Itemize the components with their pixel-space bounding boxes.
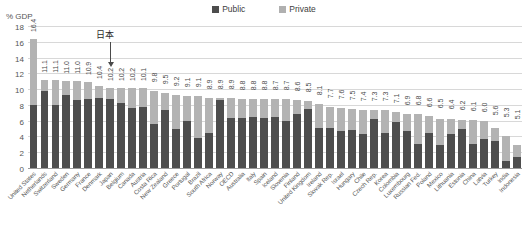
- stacked-bar[interactable]: [458, 119, 466, 168]
- bar-segment-public[interactable]: [172, 129, 180, 168]
- stacked-bar[interactable]: [95, 86, 103, 168]
- stacked-bar[interactable]: [128, 88, 136, 168]
- bar-segment-public[interactable]: [30, 105, 38, 168]
- bar-segment-public[interactable]: [52, 105, 60, 168]
- stacked-bar[interactable]: [172, 95, 180, 168]
- bar-segment-public[interactable]: [150, 124, 158, 168]
- bar-segment-public[interactable]: [337, 131, 345, 168]
- bar-segment-private[interactable]: [95, 86, 103, 98]
- bar-column[interactable]: 10.1: [138, 26, 149, 168]
- bar-segment-public[interactable]: [282, 121, 290, 168]
- bar-column[interactable]: 6.5: [434, 26, 445, 168]
- bar-segment-private[interactable]: [315, 104, 323, 128]
- stacked-bar[interactable]: [359, 110, 367, 168]
- stacked-bar[interactable]: [348, 109, 356, 168]
- stacked-bar[interactable]: [62, 81, 70, 168]
- bar-column[interactable]: 10.4: [94, 26, 105, 168]
- bar-segment-private[interactable]: [139, 88, 147, 107]
- stacked-bar[interactable]: [370, 110, 378, 168]
- bar-column[interactable]: 8.8: [248, 26, 259, 168]
- bar-column[interactable]: 11.1: [39, 26, 50, 168]
- bar-segment-public[interactable]: [359, 134, 367, 168]
- legend-item-private[interactable]: Private: [279, 4, 315, 14]
- stacked-bar[interactable]: [392, 112, 400, 168]
- bar-segment-public[interactable]: [502, 161, 510, 168]
- bar-segment-private[interactable]: [106, 88, 114, 100]
- bar-column[interactable]: 6.4: [445, 26, 456, 168]
- stacked-bar[interactable]: [315, 104, 323, 168]
- bar-segment-public[interactable]: [260, 118, 268, 168]
- stacked-bar[interactable]: [436, 117, 444, 168]
- bar-column[interactable]: 8.5: [303, 26, 314, 168]
- bar-column[interactable]: 7.4: [358, 26, 369, 168]
- bar-segment-public[interactable]: [469, 144, 477, 168]
- bar-column[interactable]: 8.8: [259, 26, 270, 168]
- bar-segment-private[interactable]: [491, 128, 499, 141]
- bar-column[interactable]: 9.2: [171, 26, 182, 168]
- bar-column[interactable]: 6.1: [467, 26, 478, 168]
- stacked-bar[interactable]: [293, 100, 301, 168]
- bar-column[interactable]: 10.9: [83, 26, 94, 168]
- stacked-bar[interactable]: [491, 124, 499, 168]
- bar-segment-public[interactable]: [293, 114, 301, 168]
- bar-column[interactable]: 6.9: [401, 26, 412, 168]
- bar-column[interactable]: 8.1: [314, 26, 325, 168]
- bar-column[interactable]: 5.6: [489, 26, 500, 168]
- stacked-bar[interactable]: [326, 107, 334, 168]
- bar-segment-public[interactable]: [491, 141, 499, 168]
- bar-segment-private[interactable]: [172, 95, 180, 128]
- bar-segment-private[interactable]: [249, 99, 257, 117]
- bar-column[interactable]: 8.9: [215, 26, 226, 168]
- bar-column[interactable]: 6.2: [456, 26, 467, 168]
- bar-segment-public[interactable]: [117, 103, 125, 168]
- bar-column[interactable]: 7.6: [336, 26, 347, 168]
- bar-segment-private[interactable]: [348, 109, 356, 130]
- bar-column[interactable]: 5.1: [511, 26, 522, 168]
- bar-segment-public[interactable]: [227, 118, 235, 168]
- bar-column[interactable]: 8.6: [292, 26, 303, 168]
- stacked-bar[interactable]: [260, 99, 268, 168]
- bar-segment-private[interactable]: [84, 82, 92, 99]
- stacked-bar[interactable]: [425, 116, 433, 168]
- bar-segment-public[interactable]: [128, 108, 136, 168]
- bar-segment-private[interactable]: [469, 120, 477, 144]
- bar-segment-public[interactable]: [205, 133, 213, 168]
- stacked-bar[interactable]: [150, 91, 158, 168]
- stacked-bar[interactable]: [30, 39, 38, 168]
- bar-segment-public[interactable]: [381, 133, 389, 168]
- stacked-bar[interactable]: [513, 128, 521, 168]
- bar-segment-public[interactable]: [95, 98, 103, 168]
- bar-column[interactable]: 10.2: [127, 26, 138, 168]
- bar-column[interactable]: 8.8: [237, 26, 248, 168]
- bar-segment-public[interactable]: [304, 109, 312, 168]
- bar-segment-public[interactable]: [271, 117, 279, 168]
- bar-segment-private[interactable]: [293, 100, 301, 114]
- bar-segment-private[interactable]: [370, 110, 378, 119]
- bar-segment-public[interactable]: [436, 145, 444, 168]
- bar-column[interactable]: 6.0: [478, 26, 489, 168]
- bar-segment-private[interactable]: [128, 88, 136, 109]
- legend-item-public[interactable]: Public: [212, 4, 245, 14]
- bar-segment-public[interactable]: [447, 134, 455, 168]
- bar-segment-private[interactable]: [117, 88, 125, 104]
- stacked-bar[interactable]: [304, 101, 312, 168]
- bar-segment-public[interactable]: [480, 139, 488, 168]
- bar-segment-public[interactable]: [513, 157, 521, 168]
- bar-segment-private[interactable]: [41, 80, 49, 90]
- bar-segment-public[interactable]: [458, 129, 466, 168]
- stacked-bar[interactable]: [84, 82, 92, 168]
- bar-segment-public[interactable]: [194, 138, 202, 168]
- bar-segment-private[interactable]: [150, 91, 158, 124]
- bar-segment-private[interactable]: [359, 110, 367, 134]
- bar-column[interactable]: 11.0: [72, 26, 83, 168]
- bar-segment-private[interactable]: [183, 96, 191, 121]
- bar-column[interactable]: 8.7: [281, 26, 292, 168]
- bar-segment-private[interactable]: [447, 119, 455, 134]
- bar-segment-private[interactable]: [62, 81, 70, 94]
- bar-segment-public[interactable]: [106, 99, 114, 168]
- bar-segment-public[interactable]: [139, 107, 147, 168]
- bar-segment-public[interactable]: [414, 144, 422, 168]
- stacked-bar[interactable]: [249, 99, 257, 168]
- bar-segment-private[interactable]: [480, 121, 488, 139]
- bar-segment-private[interactable]: [502, 136, 510, 160]
